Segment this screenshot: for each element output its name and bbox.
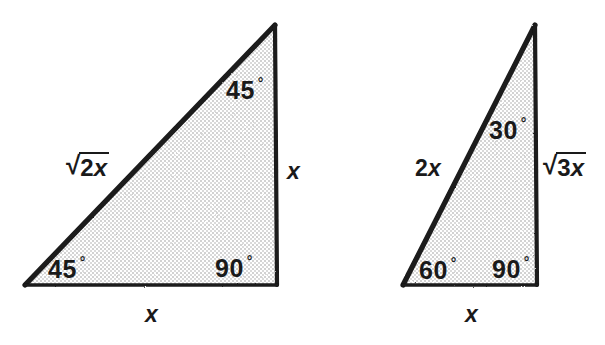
radicand-coefficient: 3 <box>557 154 570 181</box>
radical-sign-icon: √ <box>66 153 80 178</box>
triangle-1-top-angle-label: 45° <box>226 78 261 103</box>
triangle-1-hypotenuse-radicand: 2x <box>79 152 109 180</box>
degree-symbol-icon: ° <box>524 254 530 270</box>
triangle-2-hypotenuse-label: 2x <box>415 157 441 180</box>
degree-symbol-icon: ° <box>521 115 527 131</box>
radical-sign-icon: √ <box>543 153 557 178</box>
triangle-1-hypotenuse-label: √2x <box>66 152 109 180</box>
triangle-2-vertical-side-label: √3x <box>543 152 586 180</box>
triangle-1-bottom-left-angle-value: 45 <box>48 255 77 283</box>
triangle-1-vertical-side-value: x <box>287 158 300 184</box>
triangle-2-top-angle-label: 30° <box>489 118 524 143</box>
degree-symbol-icon: ° <box>258 75 264 91</box>
triangle-2-bottom-right-angle-label: 90° <box>492 257 527 282</box>
triangle-1-base-side-label: x <box>145 303 158 326</box>
triangle-1-vertical-side-label: x <box>287 160 300 183</box>
radicand-variable: x <box>571 154 584 181</box>
triangle-45-45-90-shape <box>25 25 277 285</box>
triangle-2-bottom-left-angle-label: 60° <box>419 258 454 283</box>
triangle-2-hypotenuse-coefficient: 2 <box>415 155 428 181</box>
triangle-2-hypotenuse-variable: x <box>428 155 441 181</box>
radicand-coefficient: 2 <box>80 154 93 181</box>
triangle-2-bottom-right-angle-value: 90 <box>492 255 521 283</box>
triangle-2-base-side-value: x <box>465 301 478 327</box>
triangle-2-top-angle-value: 30 <box>489 116 518 144</box>
triangle-1-base-side-value: x <box>145 301 158 327</box>
degree-symbol-icon: ° <box>80 254 86 270</box>
triangle-1-bottom-right-angle-label: 90° <box>215 256 250 281</box>
triangle-2-base-side-label: x <box>465 303 478 326</box>
degree-symbol-icon: ° <box>451 255 457 271</box>
radicand-variable: x <box>94 154 107 181</box>
special-right-triangles-figure: 45° 45° 90° √2x x x 30° 60° 90° 2x √3x x <box>0 0 605 345</box>
triangle-1-bottom-left-angle-label: 45° <box>48 257 83 282</box>
triangle-1-bottom-right-angle-value: 90 <box>215 254 244 282</box>
triangle-2-bottom-left-angle-value: 60 <box>419 256 448 284</box>
degree-symbol-icon: ° <box>247 253 253 269</box>
triangle-1-top-angle-value: 45 <box>226 76 255 104</box>
triangle-2-vertical-radicand: 3x <box>556 152 586 180</box>
